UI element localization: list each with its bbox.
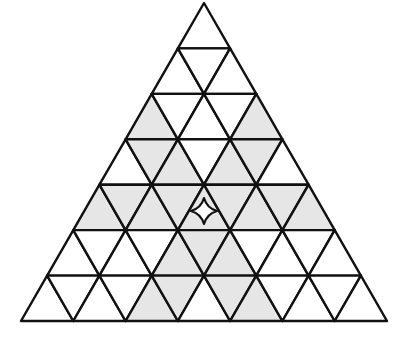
grid-cells xyxy=(21,3,387,321)
up-triangle-cell xyxy=(178,3,230,48)
triangle-grid-diagram xyxy=(0,0,411,338)
